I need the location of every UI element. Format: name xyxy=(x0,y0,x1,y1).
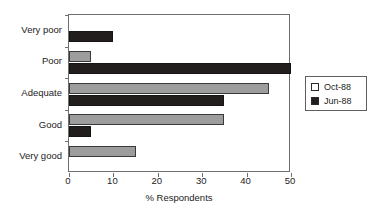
bar-oct-88-poor xyxy=(69,51,91,62)
x-axis-tick-label: 20 xyxy=(152,176,163,186)
legend-item-oct-88[interactable]: Oct-88 xyxy=(311,81,361,93)
bar-jun-88-poor xyxy=(69,63,291,74)
y-axis-tick xyxy=(65,47,69,48)
legend-item-jun-88[interactable]: Jun-88 xyxy=(311,95,361,107)
legend-label: Jun-88 xyxy=(324,96,352,106)
bar-oct-88-good xyxy=(69,114,224,125)
bar-oct-88-very-good xyxy=(69,146,136,157)
y-axis-category-label: Adequate xyxy=(0,88,62,98)
y-axis-tick xyxy=(65,78,69,79)
chart-legend: Oct-88Jun-88 xyxy=(305,76,367,111)
y-axis-tick xyxy=(65,141,69,142)
x-axis-tick-label: 40 xyxy=(240,176,251,186)
x-axis-tick-label: 0 xyxy=(65,176,70,186)
x-axis-tick-label: 30 xyxy=(196,176,207,186)
x-axis-tick-label: 50 xyxy=(285,176,296,186)
bar-oct-88-adequate xyxy=(69,83,269,94)
y-axis-category-labels: Very poorPoorAdequateGoodVery good xyxy=(0,0,62,217)
legend-label: Oct-88 xyxy=(324,82,351,92)
bar-chart: Very poorPoorAdequateGoodVery good 01020… xyxy=(0,0,382,217)
y-axis-category-label: Very good xyxy=(0,151,62,161)
x-axis-title: % Respondents xyxy=(68,192,290,203)
white-square-icon xyxy=(311,83,319,91)
y-axis-category-label: Very poor xyxy=(0,25,62,35)
y-axis-tick xyxy=(65,110,69,111)
bar-jun-88-adequate xyxy=(69,95,224,106)
x-axis-tick-label: 10 xyxy=(107,176,118,186)
y-axis-tick xyxy=(65,15,69,16)
bar-jun-88-very-poor xyxy=(69,31,113,42)
y-axis-category-label: Good xyxy=(0,120,62,130)
plot-area xyxy=(68,14,290,172)
black-square-icon xyxy=(311,97,319,105)
bar-jun-88-good xyxy=(69,126,91,137)
y-axis-category-label: Poor xyxy=(0,56,62,66)
